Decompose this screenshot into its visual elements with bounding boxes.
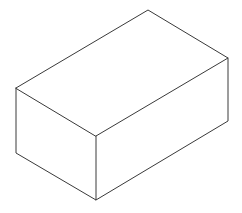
top-face xyxy=(16,10,228,136)
right-face-edges xyxy=(96,58,228,200)
cuboid-drawing xyxy=(16,10,228,200)
left-face-edges xyxy=(16,88,96,200)
box-diagram xyxy=(0,0,242,213)
